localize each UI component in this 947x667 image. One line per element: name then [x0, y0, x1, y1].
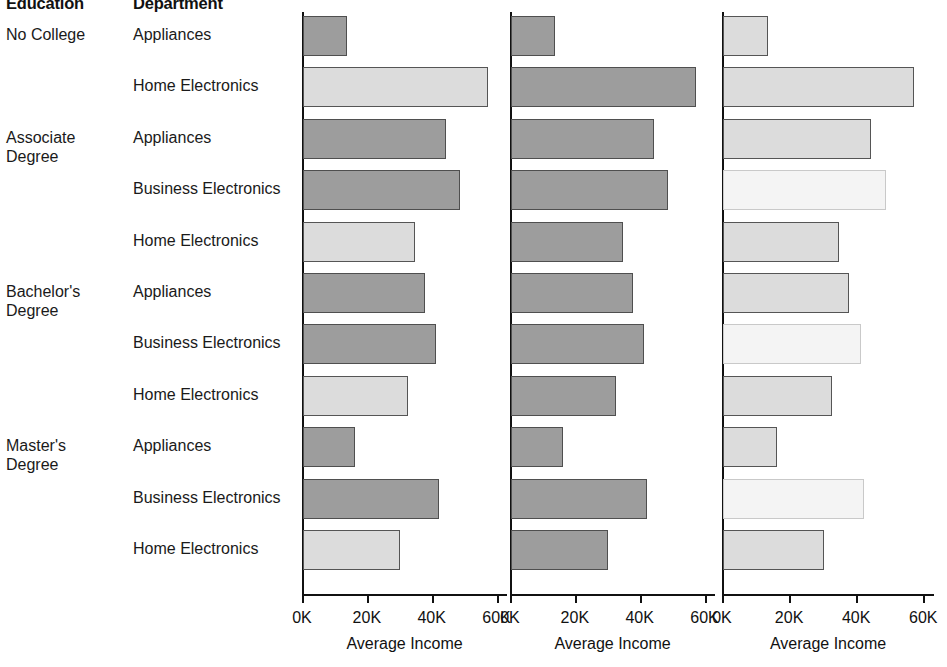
bar [303, 273, 425, 313]
column-header-education: Education [6, 0, 84, 13]
bar [511, 324, 644, 364]
education-group-label-line: Degree [6, 301, 126, 320]
department-row-label: Home Electronics [133, 539, 298, 558]
bar [303, 170, 460, 210]
x-axis-tick [789, 596, 791, 603]
x-axis-line [722, 594, 934, 596]
bar [511, 273, 633, 313]
x-axis-tick-label: 40K [842, 609, 870, 627]
chart-panel-1: Average Income 0K20K40K60K [302, 12, 507, 596]
x-axis-tick-label: 20K [353, 609, 381, 627]
department-row-label: Home Electronics [133, 231, 298, 250]
bar [303, 16, 347, 56]
bar [303, 67, 488, 107]
department-row-label: Home Electronics [133, 385, 298, 404]
bar [303, 479, 439, 519]
department-row-label: Home Electronics [133, 76, 298, 95]
chart-panel-2: Average Income 0K20K40K60K [510, 12, 715, 596]
bar [511, 119, 654, 159]
x-axis-tick [640, 596, 642, 603]
education-group-label-line: Bachelor's [6, 282, 126, 301]
x-axis-tick-label: 0K [712, 609, 732, 627]
chart-canvas: Education Department No CollegeAssociate… [0, 0, 947, 667]
education-group-label-line: No College [6, 25, 126, 44]
department-row-label: Appliances [133, 282, 298, 301]
bar [723, 222, 839, 262]
x-axis-line [302, 594, 507, 596]
x-axis-tick [722, 596, 724, 603]
education-group-label-line: Degree [6, 455, 126, 474]
x-axis-tick [575, 596, 577, 603]
x-axis-tick-label: 0K [500, 609, 520, 627]
bar [303, 376, 408, 416]
chart-panel-3: Average Income 0K20K40K60K [722, 12, 934, 596]
bar [303, 530, 400, 570]
education-group-label: Bachelor'sDegree [6, 282, 126, 320]
x-axis-tick-label: 40K [417, 609, 445, 627]
bar [303, 222, 415, 262]
department-row-label: Business Electronics [133, 179, 298, 198]
x-axis-tick-label: 40K [625, 609, 653, 627]
bar [511, 16, 555, 56]
x-axis-tick-label: 60K [909, 609, 937, 627]
department-row-label: Appliances [133, 128, 298, 147]
x-axis-tick [497, 596, 499, 603]
x-axis-tick-label: 20K [561, 609, 589, 627]
x-axis-tick [856, 596, 858, 603]
x-axis-tick [923, 596, 925, 603]
education-group-label: Master'sDegree [6, 436, 126, 474]
department-row-label: Appliances [133, 436, 298, 455]
bar [723, 427, 777, 467]
bar [303, 119, 446, 159]
education-group-label-line: Degree [6, 147, 126, 166]
bar [723, 67, 914, 107]
department-row-label: Appliances [133, 25, 298, 44]
x-axis-title: Average Income [510, 635, 715, 653]
bar [723, 119, 871, 159]
bar [303, 427, 355, 467]
x-axis-tick [302, 596, 304, 603]
column-header-department: Department [133, 0, 223, 13]
x-axis-title: Average Income [302, 635, 507, 653]
bar [511, 376, 616, 416]
education-group-label: No College [6, 25, 126, 44]
x-axis-tick-label: 0K [292, 609, 312, 627]
bar [511, 479, 647, 519]
x-axis-tick [432, 596, 434, 603]
bar [511, 427, 563, 467]
bar [303, 324, 436, 364]
bar [723, 530, 824, 570]
x-axis-tick-label: 20K [775, 609, 803, 627]
x-axis-tick [367, 596, 369, 603]
bar [723, 273, 849, 313]
bar [723, 16, 768, 56]
x-axis-line [510, 594, 715, 596]
bar [723, 170, 886, 210]
education-group-label-line: Associate [6, 128, 126, 147]
x-axis-tick [510, 596, 512, 603]
bar [723, 479, 864, 519]
bar [723, 324, 861, 364]
x-axis-title: Average Income [722, 635, 934, 653]
department-row-label: Business Electronics [133, 488, 298, 507]
x-axis-tick [705, 596, 707, 603]
bar [723, 376, 832, 416]
education-group-label: AssociateDegree [6, 128, 126, 166]
bar [511, 170, 668, 210]
bar [511, 222, 623, 262]
education-group-label-line: Master's [6, 436, 126, 455]
department-row-label: Business Electronics [133, 333, 298, 352]
bar [511, 530, 608, 570]
bar [511, 67, 696, 107]
